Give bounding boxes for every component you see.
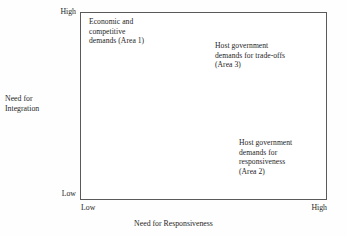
quadrant-label-area-3: Host government demands for trade-offs (… (215, 41, 285, 70)
y-axis-title: Need for Integration (5, 94, 39, 114)
plot-area: Economic and competitive demands (Area 1… (80, 12, 327, 200)
x-axis-tick-high: High (245, 203, 327, 212)
quadrant-label-area-1: Economic and competitive demands (Area 1… (89, 17, 144, 46)
x-axis-tick-low: Low (81, 203, 95, 212)
y-axis-tick-high: High (34, 7, 76, 16)
x-axis-title: Need for Responsiveness (0, 219, 347, 228)
integration-responsiveness-matrix-figure: High Low Need for Integration Economic a… (0, 0, 347, 236)
y-axis-tick-low: Low (34, 189, 76, 198)
quadrant-label-area-2: Host government demands for responsivene… (239, 138, 292, 176)
